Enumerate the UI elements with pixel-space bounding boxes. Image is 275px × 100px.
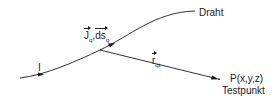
line-element-arrow-icon — [108, 43, 115, 48]
element-label: Jq,dsq — [84, 31, 109, 41]
wire-label: Draht — [199, 8, 223, 18]
current-density-subscript: q — [89, 37, 92, 43]
test-point — [218, 78, 220, 80]
test-point-caption: Testpunkt — [222, 86, 265, 96]
line-element-symbol: ds — [95, 31, 106, 41]
wire-curve — [20, 11, 195, 78]
test-point-label: P(x,y,z) — [230, 74, 263, 84]
source-point — [100, 49, 102, 51]
distance-vector-label: rqt — [152, 56, 160, 66]
distance-vector-arrow-icon — [211, 76, 219, 80]
current-label: I — [38, 63, 41, 73]
line-element-subscript: q — [106, 37, 109, 43]
distance-vector-subscript: qt — [155, 62, 160, 68]
